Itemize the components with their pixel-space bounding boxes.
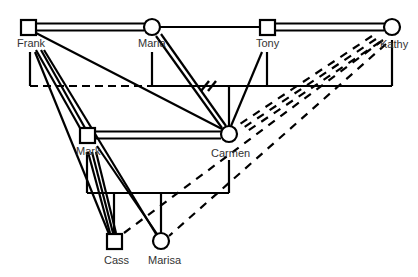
label-carmen: Carmen <box>211 147 250 159</box>
label-cass: Cass <box>104 254 130 266</box>
genogram-canvas: Frank Maria Tony Kathy Mark Carmen Cass … <box>0 0 418 277</box>
person-cass-square[interactable] <box>107 234 122 249</box>
rel-tony-carmen <box>231 52 262 126</box>
person-carmen-circle[interactable] <box>221 126 237 142</box>
rel-frank-cass <box>35 52 109 234</box>
union-frank-maria <box>36 24 144 31</box>
person-marisa-circle[interactable] <box>153 233 169 249</box>
person-kathy-circle[interactable] <box>384 19 400 35</box>
label-tony: Tony <box>256 37 280 49</box>
label-marisa: Marisa <box>148 254 182 266</box>
genogram-svg: Frank Maria Tony Kathy Mark Carmen Cass … <box>0 0 418 277</box>
person-tony-square[interactable] <box>260 20 275 35</box>
person-frank-square[interactable] <box>21 20 36 35</box>
label-maria: Maria <box>138 37 166 49</box>
person-mark-square[interactable] <box>80 128 95 143</box>
union-tony-kathy <box>275 24 384 31</box>
rel-kathy-cass <box>124 40 383 233</box>
label-mark: Mark <box>76 145 101 157</box>
label-frank: Frank <box>17 37 46 49</box>
label-kathy: Kathy <box>380 38 409 50</box>
rel-kathy-marisa <box>169 44 386 236</box>
union-mark-carmen <box>95 132 221 139</box>
person-maria-circle[interactable] <box>144 19 160 35</box>
